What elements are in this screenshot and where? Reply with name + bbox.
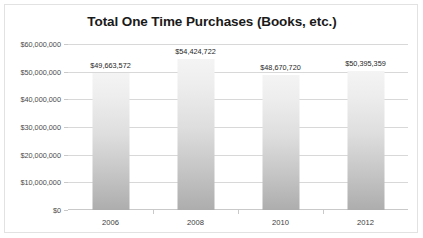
x-axis-category-label: 2010 [272,218,289,227]
x-axis-category-label: 2008 [187,218,204,227]
y-axis-tick-label: $60,000,000 [20,40,61,49]
bar[interactable] [177,59,214,210]
bar-group: $54,424,7222008 [153,44,238,210]
y-axis-tick-label: $50,000,000 [20,67,61,76]
y-tick-mark [64,210,68,211]
y-axis-tick-label: $20,000,000 [20,150,61,159]
bar[interactable] [92,73,129,210]
x-tick-mark [153,210,154,214]
x-axis-category-label: 2012 [357,218,374,227]
bar-value-label: $50,395,359 [345,59,386,68]
bar-group: $48,670,7202010 [238,44,323,210]
x-tick-mark [238,210,239,214]
x-tick-mark [323,210,324,214]
y-axis-tick-label: $0 [53,206,61,215]
y-axis-tick-label: $30,000,000 [20,123,61,132]
bar-value-label: $49,663,572 [90,61,131,70]
bar-value-label: $48,670,720 [260,63,301,72]
bar-group: $49,663,5722006 [68,44,153,210]
y-axis-tick-label: $10,000,000 [20,178,61,187]
bar-value-label: $54,424,722 [175,47,216,56]
x-axis-category-label: 2006 [102,218,119,227]
plot-area: $0$10,000,000$20,000,000$30,000,000$40,0… [68,44,408,210]
chart-title: Total One Time Purchases (Books, etc.) [5,14,419,29]
bar-group: $50,395,3592012 [323,44,408,210]
bar[interactable] [347,71,384,210]
y-axis-tick-label: $40,000,000 [20,95,61,104]
bar[interactable] [262,75,299,210]
chart-container: Total One Time Purchases (Books, etc.) $… [4,4,418,233]
